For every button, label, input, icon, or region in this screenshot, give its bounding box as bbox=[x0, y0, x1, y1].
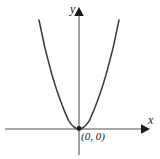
vertex-coordinate-label: (0, 0) bbox=[81, 130, 105, 143]
parabola-figure: y x (0, 0) bbox=[0, 0, 160, 159]
y-axis-arrow-icon bbox=[74, 7, 84, 16]
x-axis-label: x bbox=[147, 113, 154, 127]
y-axis-label: y bbox=[69, 2, 76, 16]
